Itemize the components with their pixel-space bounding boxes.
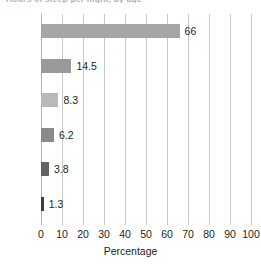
x-tick-label-40: 40 xyxy=(119,228,131,240)
gridline-90 xyxy=(230,14,231,225)
horizontal-bar-chart: 66≤814.59–108.311–126.213–153.816–201.3≥… xyxy=(0,0,261,264)
bar-row: 8.311–12 xyxy=(41,93,251,107)
x-axis-title: Percentage xyxy=(0,245,261,257)
x-tick-label-20: 20 xyxy=(77,228,89,240)
x-tick-label-80: 80 xyxy=(203,228,215,240)
gridline-30 xyxy=(104,14,105,225)
gridline-60 xyxy=(167,14,168,225)
gridline-0 xyxy=(41,14,42,225)
gridline-40 xyxy=(125,14,126,225)
x-tick-label-60: 60 xyxy=(161,228,173,240)
gridline-70 xyxy=(188,14,189,225)
bar xyxy=(41,128,54,142)
bar-value-label: 66 xyxy=(185,25,197,37)
gridline-10 xyxy=(62,14,63,225)
bar xyxy=(41,93,58,107)
x-tick-label-90: 90 xyxy=(224,228,236,240)
x-tick-label-70: 70 xyxy=(182,228,194,240)
bar-value-label: 14.5 xyxy=(76,60,96,72)
gridline-50 xyxy=(146,14,147,225)
gridline-100 xyxy=(251,14,252,225)
bar xyxy=(41,197,44,211)
bar-value-label: 3.8 xyxy=(54,163,69,175)
x-tick-label-10: 10 xyxy=(56,228,68,240)
x-tick-label-100: 100 xyxy=(242,228,260,240)
x-tick-label-0: 0 xyxy=(38,228,44,240)
bar-row: 3.816–20 xyxy=(41,162,251,176)
bar-value-label: 8.3 xyxy=(63,94,78,106)
x-tick-label-30: 30 xyxy=(98,228,110,240)
bar xyxy=(41,162,49,176)
bar-value-label: 6.2 xyxy=(59,129,74,141)
x-tick-label-50: 50 xyxy=(140,228,152,240)
bar-row: 66≤8 xyxy=(41,24,251,38)
gridline-80 xyxy=(209,14,210,225)
bar-value-label: 1.3 xyxy=(49,198,64,210)
bar xyxy=(41,24,180,38)
bar-row: 1.3≥21 xyxy=(41,197,251,211)
bar-row: 14.59–10 xyxy=(41,59,251,73)
bar xyxy=(41,59,71,73)
bar-row: 6.213–15 xyxy=(41,128,251,142)
plot-area: 66≤814.59–108.311–126.213–153.816–201.3≥… xyxy=(41,14,251,225)
gridline-20 xyxy=(83,14,84,225)
